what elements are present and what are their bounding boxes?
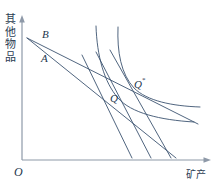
price-line-3 <box>110 50 171 158</box>
label-budget-a: A <box>40 52 48 64</box>
plot-canvas: B A Q Q * O <box>0 0 222 182</box>
label-budget-b: B <box>42 28 49 40</box>
x-axis-arrow-icon <box>204 157 212 163</box>
indifference-curve-low <box>96 26 194 122</box>
x-axis-label: 矿产 <box>186 166 206 181</box>
label-point-q-star: Q <box>134 78 142 90</box>
price-line-2 <box>96 52 151 158</box>
label-point-q-star-superscript: * <box>142 76 146 84</box>
budget-line-a <box>27 38 176 158</box>
labels-group: B A Q Q * O <box>14 28 146 179</box>
indifference-curve-figure: B A Q Q * O 其 他 物 品 矿产 <box>0 0 222 182</box>
y-axis-arrow-icon <box>19 15 25 23</box>
label-point-q: Q <box>110 92 118 104</box>
budget-line-b <box>27 38 198 124</box>
label-origin: O <box>14 165 23 179</box>
indifference-curves-group <box>96 26 200 122</box>
indifference-curve-high <box>118 27 200 107</box>
y-axis-label-char-3: 物 <box>2 39 18 52</box>
y-axis-label: 其 他 物 品 <box>2 14 18 64</box>
y-axis-label-char-4: 品 <box>2 52 18 65</box>
y-axis-label-char-1: 其 <box>2 14 18 27</box>
